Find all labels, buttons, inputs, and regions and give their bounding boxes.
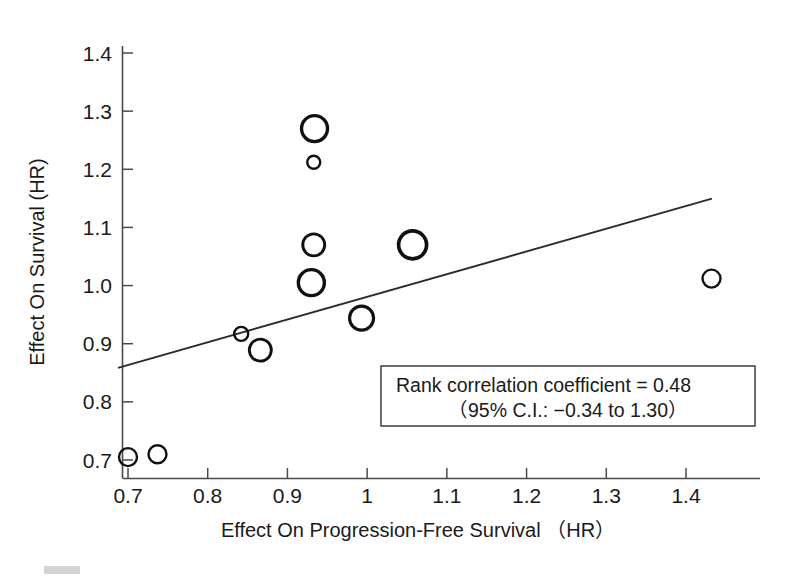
scatter-plot-figure: 0.70.80.91.01.11.21.31.4 0.70.80.911.11.… bbox=[0, 0, 792, 578]
y-tick-label: 1.3 bbox=[83, 100, 112, 123]
y-tick-label: 0.7 bbox=[83, 449, 112, 472]
x-tick-label: 0.9 bbox=[273, 484, 302, 507]
y-tick-label: 1.2 bbox=[83, 158, 112, 181]
annotation-line-2: （95% C.I.: −0.34 to 1.30） bbox=[448, 399, 688, 421]
x-tick-label: 1.1 bbox=[432, 484, 461, 507]
annotation-line-1: Rank correlation coefficient = 0.48 bbox=[396, 374, 691, 396]
x-tick-label: 0.7 bbox=[113, 484, 142, 507]
x-axis-title: Effect On Progression-Free Survival （HR） bbox=[221, 519, 615, 541]
x-tick-label: 0.8 bbox=[193, 484, 222, 507]
y-tick-label: 0.8 bbox=[83, 390, 112, 413]
y-tick-label: 0.9 bbox=[83, 332, 112, 355]
y-tick-label: 1.4 bbox=[83, 42, 113, 65]
y-tick-label: 1.0 bbox=[83, 274, 112, 297]
x-tick-label: 1.3 bbox=[592, 484, 621, 507]
annotation-box: Rank correlation coefficient = 0.48 （95%… bbox=[381, 366, 755, 426]
corner-registration-mark bbox=[44, 566, 80, 574]
x-tick-label: 1 bbox=[361, 484, 373, 507]
y-tick-label: 1.1 bbox=[83, 216, 112, 239]
x-tick-label: 1.4 bbox=[671, 484, 701, 507]
x-tick-label: 1.2 bbox=[512, 484, 541, 507]
chart-canvas: 0.70.80.91.01.11.21.31.4 0.70.80.911.11.… bbox=[0, 0, 792, 578]
y-axis-title: Effect On Survival (HR) bbox=[26, 158, 48, 365]
